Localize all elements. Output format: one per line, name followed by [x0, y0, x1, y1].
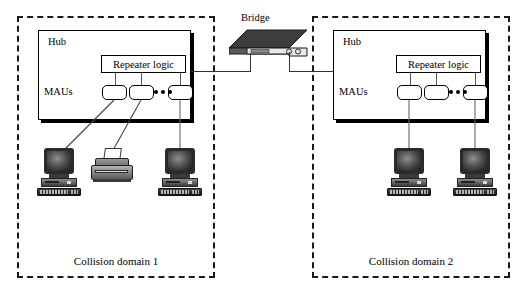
power-indicator	[417, 181, 421, 184]
computer-icon	[453, 148, 497, 196]
keyboard-numpad	[487, 190, 494, 194]
power-indicator	[483, 181, 487, 184]
monitor-screen	[463, 151, 487, 171]
keyboard-keys	[456, 190, 484, 194]
monitor-screen	[397, 151, 421, 171]
diagram-canvas: Collision domain 1 Hub MAUs Repeater log…	[0, 0, 526, 297]
hub-to-device-links-right	[0, 0, 526, 297]
computer-icon	[387, 148, 431, 196]
drive-slot	[395, 181, 409, 183]
keyboard-keys	[390, 190, 418, 194]
drive-slot	[461, 181, 475, 183]
keyboard-numpad	[421, 190, 428, 194]
